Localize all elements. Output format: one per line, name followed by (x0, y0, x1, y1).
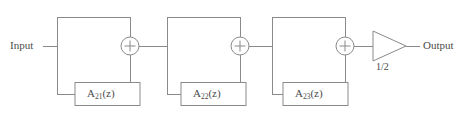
block-a22-suffix: (z) (208, 87, 220, 99)
block-a21-label: A21(z) (87, 88, 115, 99)
output-label: Output (423, 40, 454, 51)
block-a23-base: A (295, 87, 303, 99)
block-a21-suffix: (z) (102, 87, 114, 99)
block-a23-label: A23(z) (295, 88, 323, 99)
input-label: Input (10, 40, 33, 51)
diagram-vector-layer (0, 0, 461, 124)
block-a22-base: A (193, 87, 201, 99)
block-a21-subscript: 21 (95, 92, 103, 101)
block-a22-subscript: 22 (201, 92, 209, 101)
gain-label: 1/2 (376, 62, 389, 72)
block-a21-base: A (87, 87, 95, 99)
block-diagram-canvas: Input Output 1/2 A21(z) A22(z) A23(z) (0, 0, 461, 124)
amplifier-triangle (373, 31, 406, 61)
block-a23-suffix: (z) (310, 87, 322, 99)
block-a23-subscript: 23 (303, 92, 311, 101)
block-a22-label: A22(z) (193, 88, 221, 99)
